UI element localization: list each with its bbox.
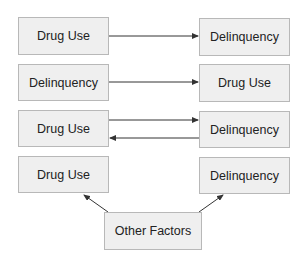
row1-left-box: Drug Use (18, 17, 109, 55)
other-factors-label: Other Factors (115, 224, 191, 238)
other-factors-box: Other Factors (104, 212, 202, 250)
row1-left-label: Drug Use (37, 29, 90, 43)
row4-right-label: Delinquency (210, 169, 279, 183)
row4-left-box: Drug Use (18, 156, 109, 193)
row2-right-box: Drug Use (199, 64, 290, 102)
row3-right-label: Delinquency (210, 123, 279, 137)
row4-right-box: Delinquency (199, 157, 290, 194)
row1-right-box: Delinquency (199, 18, 290, 56)
row3-left-box: Drug Use (18, 110, 109, 147)
row2-left-box: Delinquency (18, 64, 109, 101)
row1-right-label: Delinquency (210, 30, 279, 44)
arrow-other-to-druguse (84, 195, 108, 212)
row4-left-label: Drug Use (37, 168, 90, 182)
row3-left-label: Drug Use (37, 122, 90, 136)
arrow-other-to-delinquency (199, 195, 223, 212)
row2-left-label: Delinquency (29, 76, 98, 90)
row2-right-label: Drug Use (218, 76, 271, 90)
row3-right-box: Delinquency (199, 111, 290, 148)
